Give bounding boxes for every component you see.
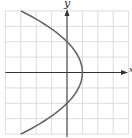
x-axis-label: x [129,66,132,74]
y-axis-label: y [64,0,70,9]
axes [5,9,128,137]
parabola-graph [0,0,132,138]
